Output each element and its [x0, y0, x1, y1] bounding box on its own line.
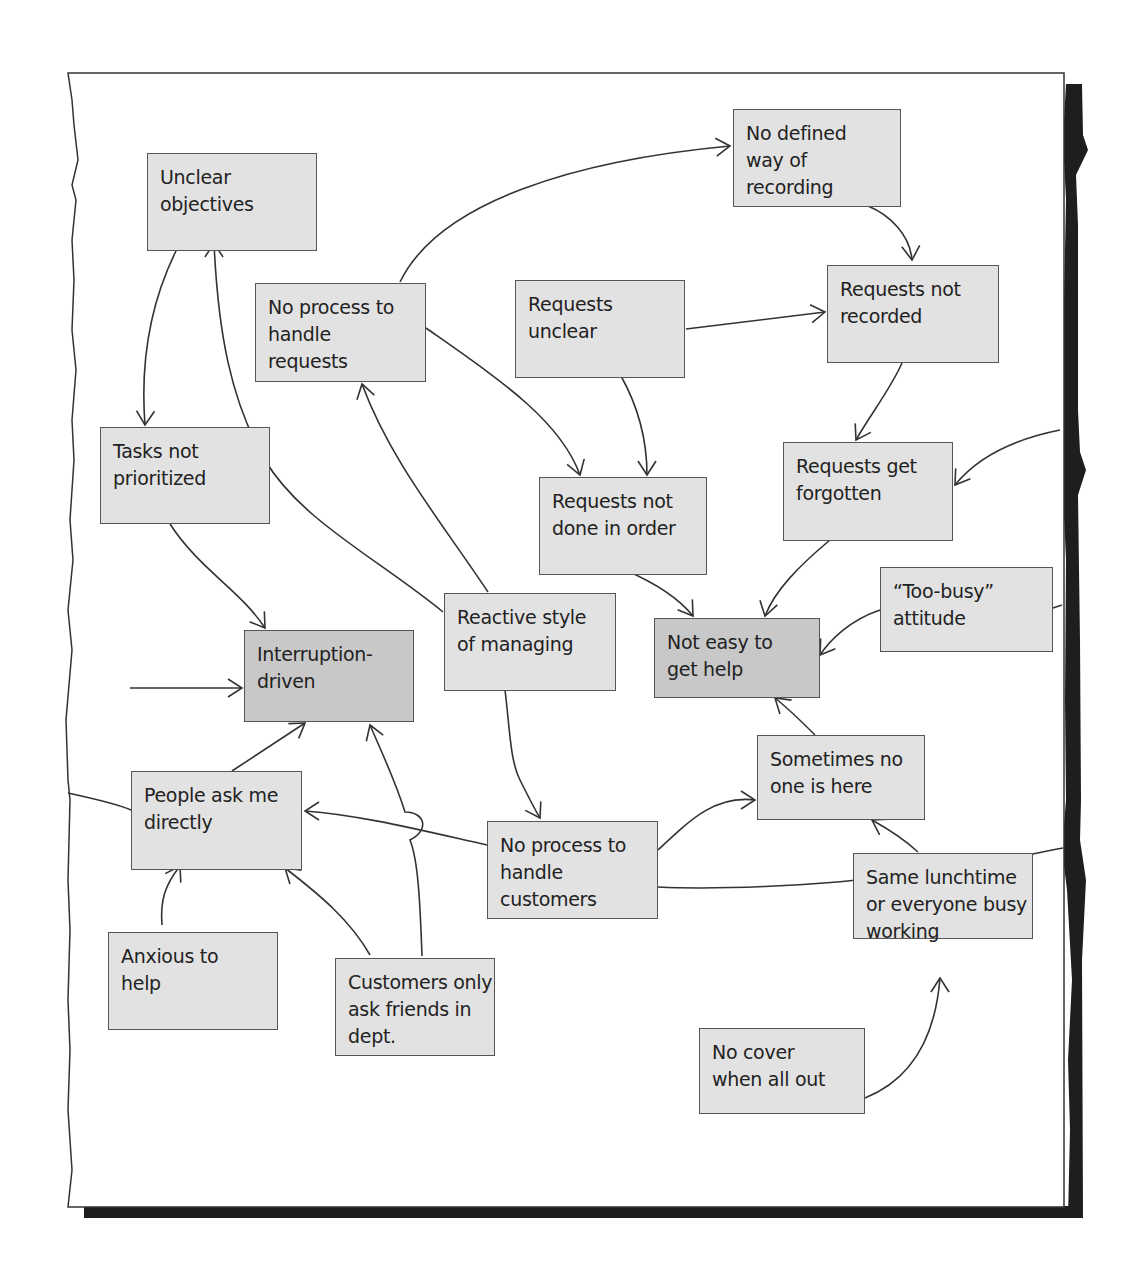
node-label-line: get help [667, 656, 811, 683]
node-label-line: Reactive style [457, 604, 607, 631]
node-reactive-style: Reactive styleof managing [444, 593, 616, 691]
node-label-line: one is here [770, 773, 916, 800]
node-label-line: ask friends in [348, 996, 486, 1023]
node-label-line: No cover [712, 1039, 856, 1066]
node-label-line: Requests not [840, 276, 990, 303]
node-sometimes-no-one: Sometimes noone is here [757, 735, 925, 820]
node-no-defined-way: No definedway ofrecording [733, 109, 901, 207]
node-label-line: forgotten [796, 480, 944, 507]
node-label-line: Same lunchtime [866, 864, 1024, 891]
node-interruption-driven: Interruption-driven [244, 630, 414, 722]
node-label-line: attitude [893, 605, 1044, 632]
node-label-line: Not easy to [667, 629, 811, 656]
node-label-line: No process to [500, 832, 649, 859]
node-label-line: Requests get [796, 453, 944, 480]
node-label-line: recording [746, 174, 892, 201]
node-label-line: Tasks not [113, 438, 261, 465]
node-requests-not-recorded: Requests notrecorded [827, 265, 999, 363]
node-no-cover: No coverwhen all out [699, 1028, 865, 1114]
node-not-easy-help: Not easy toget help [654, 618, 820, 698]
node-label-line: handle [500, 859, 649, 886]
node-label-line: prioritized [113, 465, 261, 492]
node-label-line: Customers only [348, 969, 486, 996]
node-label-line: way of [746, 147, 892, 174]
node-same-lunchtime: Same lunchtimeor everyone busyworking [853, 853, 1033, 939]
node-label-line: Requests not [552, 488, 698, 515]
node-label-line: People ask me [144, 782, 293, 809]
node-no-process-requests: No process tohandlerequests [255, 283, 426, 382]
node-requests-forgotten: Requests getforgotten [783, 442, 953, 541]
node-label-line: unclear [528, 318, 676, 345]
node-label-line: Anxious to [121, 943, 269, 970]
node-label-line: driven [257, 668, 405, 695]
node-label-line: No defined [746, 120, 892, 147]
node-tasks-not-prioritized: Tasks notprioritized [100, 427, 270, 524]
node-label-line: “Too-busy” [893, 578, 1044, 605]
node-too-busy: “Too-busy”attitude [880, 567, 1053, 652]
node-customers-ask-friends: Customers onlyask friends indept. [335, 958, 495, 1056]
node-label-line: handle [268, 321, 417, 348]
node-label-line: dept. [348, 1023, 486, 1050]
node-requests-unclear: Requestsunclear [515, 280, 685, 378]
node-label-line: requests [268, 348, 417, 375]
node-label-line: Unclear [160, 164, 308, 191]
node-label-line: when all out [712, 1066, 856, 1093]
node-label-line: directly [144, 809, 293, 836]
node-unclear-objectives: Unclearobjectives [147, 153, 317, 251]
node-requests-not-done: Requests notdone in order [539, 477, 707, 575]
node-label-line: customers [500, 886, 649, 913]
node-label-line: recorded [840, 303, 990, 330]
node-label-line: done in order [552, 515, 698, 542]
node-anxious-to-help: Anxious tohelp [108, 932, 278, 1030]
node-no-process-customers: No process tohandlecustomers [487, 821, 658, 919]
node-label-line: No process to [268, 294, 417, 321]
node-label-line: of managing [457, 631, 607, 658]
node-people-ask-directly: People ask medirectly [131, 771, 302, 870]
node-label-line: Interruption- [257, 641, 405, 668]
node-label-line: Requests [528, 291, 676, 318]
node-label-line: working [866, 918, 1024, 945]
node-label-line: or everyone busy [866, 891, 1024, 918]
node-label-line: help [121, 970, 269, 997]
node-label-line: Sometimes no [770, 746, 916, 773]
node-label-line: objectives [160, 191, 308, 218]
